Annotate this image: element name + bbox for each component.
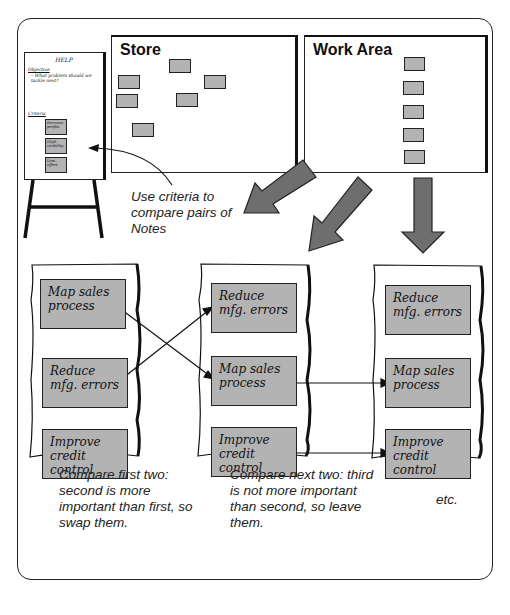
arrow-mid-icon — [309, 177, 372, 251]
easel-icon — [25, 180, 102, 238]
priority-note[interactable]: Reduce mfg. errors — [211, 283, 297, 333]
caption-step-1: Compare first two: second is more import… — [59, 467, 194, 531]
column-step-3: Reduce mfg. errors Map sales process Imp… — [385, 263, 495, 443]
priority-note[interactable]: Reduce mfg. errors — [385, 285, 471, 335]
caption-etc: etc. — [436, 492, 476, 508]
caption-step-2: Compare next two: third is not more impo… — [230, 467, 380, 531]
priority-note[interactable]: Map sales process — [40, 279, 126, 329]
instruction-caption: Use criteria to compare pairs of Notes — [131, 189, 251, 237]
priority-note[interactable]: Map sales process — [211, 356, 297, 406]
priority-note[interactable]: Reduce mfg. errors — [42, 358, 128, 408]
column-step-2: Reduce mfg. errors Map sales process Imp… — [211, 263, 321, 443]
arrow-left-icon — [244, 160, 316, 213]
priority-note[interactable]: Improve credit control — [385, 429, 471, 479]
priority-note[interactable]: Map sales process — [385, 358, 471, 408]
flow-arrows — [244, 160, 444, 253]
criteria-pointer-arrow — [95, 148, 172, 185]
column-step-1: Map sales process Reduce mfg. errors Imp… — [40, 263, 150, 443]
arrow-down-icon — [402, 178, 444, 253]
